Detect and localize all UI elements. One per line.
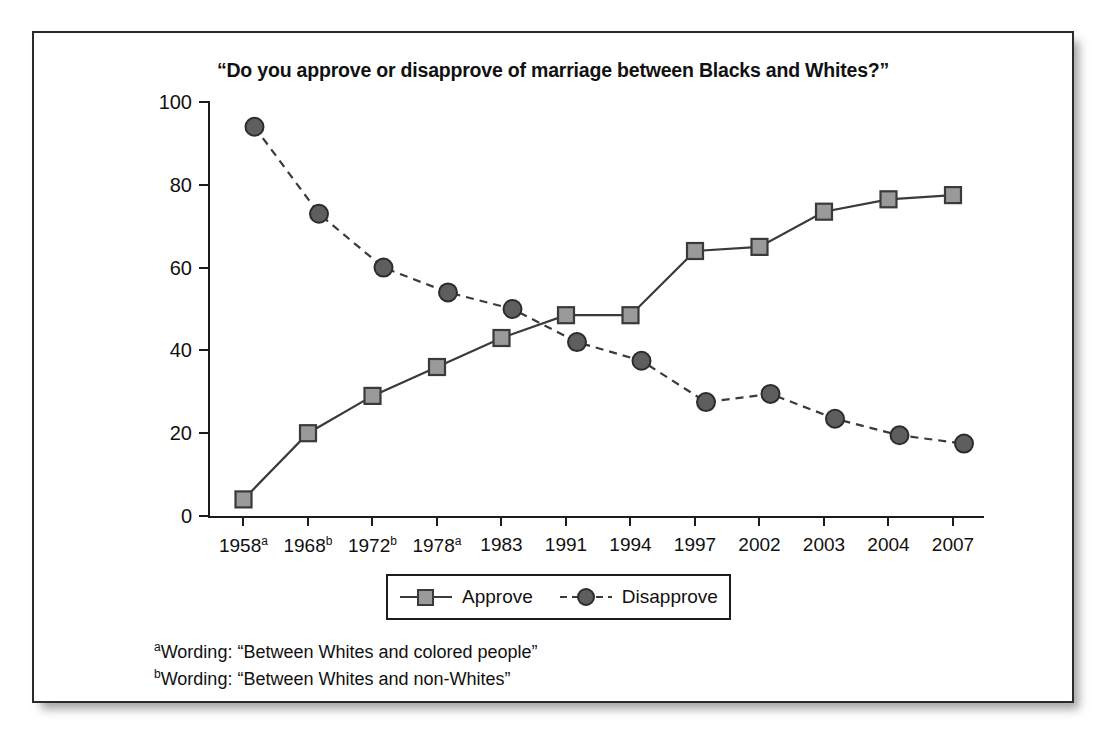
data-point-approve-2003 bbox=[816, 204, 832, 220]
chart-title: “Do you approve or disapprove of marriag… bbox=[34, 59, 1072, 82]
legend-item-approve: Approve bbox=[399, 586, 533, 608]
data-point-disapprove-2003 bbox=[826, 410, 844, 428]
data-point-disapprove-1978 bbox=[439, 283, 457, 301]
x-tick-footnote-marker: b bbox=[326, 534, 333, 548]
data-point-approve-1972 bbox=[365, 388, 381, 404]
footnote-b-text: Wording: “Between Whites and non-Whites” bbox=[161, 669, 511, 689]
y-tick-label-0: 0 bbox=[181, 505, 192, 528]
y-tick-label-20: 20 bbox=[170, 422, 192, 445]
data-point-disapprove-1972 bbox=[375, 259, 393, 277]
legend-label-approve: Approve bbox=[462, 586, 533, 608]
data-point-approve-1968 bbox=[300, 425, 316, 441]
data-point-disapprove-1991 bbox=[568, 333, 586, 351]
x-tick-footnote-marker: a bbox=[455, 534, 462, 548]
y-tick bbox=[199, 267, 208, 269]
series-line-disapprove bbox=[255, 127, 965, 444]
plot-area: 020406080100 1958a1968b1972b1978a1983199… bbox=[208, 102, 982, 516]
data-point-disapprove-1997 bbox=[697, 393, 715, 411]
x-tick-label-1997: 1997 bbox=[674, 534, 716, 556]
data-point-disapprove-2004 bbox=[891, 426, 909, 444]
chart-legend: Approve Disapprove bbox=[386, 574, 731, 620]
data-point-approve-1997 bbox=[687, 243, 703, 259]
x-tick-label-1994: 1994 bbox=[609, 534, 651, 556]
x-tick-label-1958: 1958a bbox=[219, 534, 268, 557]
data-point-approve-1991 bbox=[558, 307, 574, 323]
footnote-b: bWording: “Between Whites and non-Whites… bbox=[154, 666, 538, 693]
figure-frame: “Do you approve or disapprove of marriag… bbox=[32, 31, 1074, 703]
legend-disapprove-symbol-icon bbox=[559, 587, 613, 607]
data-point-approve-2004 bbox=[881, 191, 897, 207]
x-tick-label-2007: 2007 bbox=[932, 534, 974, 556]
y-tick bbox=[199, 515, 208, 517]
data-point-approve-1994 bbox=[623, 307, 639, 323]
y-tick-label-80: 80 bbox=[170, 173, 192, 196]
data-point-disapprove-1968 bbox=[310, 205, 328, 223]
data-point-approve-2007 bbox=[945, 187, 961, 203]
x-tick-label-1968: 1968b bbox=[283, 534, 332, 557]
footnotes: aWording: “Between Whites and colored pe… bbox=[154, 639, 538, 692]
data-point-disapprove-1958 bbox=[246, 118, 264, 136]
y-tick bbox=[199, 184, 208, 186]
x-tick-label-1991: 1991 bbox=[545, 534, 587, 556]
footnote-a-marker: a bbox=[154, 640, 161, 654]
chart-page: “Do you approve or disapprove of marriag… bbox=[0, 0, 1115, 750]
x-tick-label-1983: 1983 bbox=[480, 534, 522, 556]
y-tick bbox=[199, 432, 208, 434]
data-point-approve-2002 bbox=[752, 239, 768, 255]
data-point-disapprove-1994 bbox=[633, 352, 651, 370]
x-tick-label-1972: 1972b bbox=[348, 534, 397, 557]
y-tick bbox=[199, 101, 208, 103]
data-point-approve-1958 bbox=[236, 491, 252, 507]
x-tick-label-1978: 1978a bbox=[412, 534, 461, 557]
data-point-approve-1983 bbox=[494, 330, 510, 346]
legend-item-disapprove: Disapprove bbox=[559, 586, 718, 608]
footnote-a: aWording: “Between Whites and colored pe… bbox=[154, 639, 538, 666]
x-tick-label-2002: 2002 bbox=[738, 534, 780, 556]
data-point-disapprove-2007 bbox=[955, 435, 973, 453]
x-tick-label-2003: 2003 bbox=[803, 534, 845, 556]
x-tick-footnote-marker: a bbox=[261, 534, 268, 548]
footnote-a-text: Wording: “Between Whites and colored peo… bbox=[161, 642, 538, 662]
legend-label-disapprove: Disapprove bbox=[622, 586, 718, 608]
y-tick-label-60: 60 bbox=[170, 256, 192, 279]
data-point-disapprove-2002 bbox=[762, 385, 780, 403]
data-point-disapprove-1983 bbox=[504, 300, 522, 318]
legend-approve-symbol-icon bbox=[399, 587, 453, 607]
y-tick-label-100: 100 bbox=[159, 91, 192, 114]
x-tick-footnote-marker: b bbox=[390, 534, 397, 548]
y-tick-label-40: 40 bbox=[170, 339, 192, 362]
series-layer bbox=[208, 102, 982, 518]
y-tick bbox=[199, 349, 208, 351]
data-point-approve-1978 bbox=[429, 359, 445, 375]
x-tick-label-2004: 2004 bbox=[867, 534, 909, 556]
footnote-b-marker: b bbox=[154, 667, 161, 681]
